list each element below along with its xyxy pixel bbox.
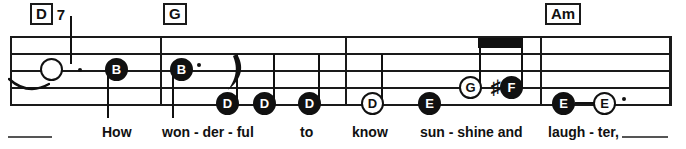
note-11-head[interactable]: E — [552, 92, 575, 115]
lyric-wonderful: won - der - ful — [162, 124, 254, 140]
staff-line-4 — [10, 87, 672, 89]
barline-end — [669, 36, 672, 106]
lyric-laughter: laugh - ter, — [548, 124, 619, 140]
note-7-head[interactable]: D — [361, 92, 384, 115]
note-9-head[interactable]: G — [459, 76, 482, 99]
note-5-stem — [273, 54, 275, 102]
note-1-head[interactable] — [40, 58, 63, 81]
chord-root-label: Am — [545, 3, 581, 25]
barline-1 — [160, 36, 162, 106]
staff-line-2 — [10, 53, 672, 55]
staff-line-1 — [10, 36, 672, 38]
note-2-head[interactable]: B — [105, 58, 128, 81]
lyric-know: know — [352, 124, 388, 140]
chord-symbol-d7[interactable]: D 7 — [30, 3, 65, 25]
lyric-how: How — [102, 124, 132, 140]
chord-extension-label: 7 — [57, 6, 65, 23]
note-8-head[interactable]: E — [418, 92, 441, 115]
chord-root-label: G — [163, 3, 187, 25]
sheet-music-excerpt: D 7 G Am B B D D D D E — [0, 0, 686, 149]
tie-incoming — [8, 76, 50, 96]
barline-3 — [540, 36, 542, 106]
note-6-head[interactable]: D — [298, 92, 321, 115]
note-3-dot — [197, 63, 201, 67]
lyric-rule-end — [622, 136, 668, 138]
barline-2 — [345, 36, 347, 106]
note-4-flag — [220, 52, 246, 94]
note-1-dot — [78, 68, 82, 72]
note-4-head[interactable]: D — [216, 92, 239, 115]
note-1-stem — [70, 16, 72, 64]
note-5-head[interactable]: D — [253, 92, 276, 115]
chord-symbol-g[interactable]: G — [163, 3, 187, 25]
note-12-head[interactable]: E — [593, 92, 616, 115]
note-3-head[interactable]: B — [170, 58, 193, 81]
lyric-sunshine-and: sun - shine and — [420, 124, 523, 140]
lyric-to: to — [300, 124, 313, 140]
note-10-head[interactable]: F — [500, 76, 523, 99]
tie-e-to-e — [575, 102, 594, 104]
lyric-rule-start — [8, 136, 52, 138]
note-6-stem — [318, 54, 320, 102]
chord-symbol-am[interactable]: Am — [545, 3, 581, 25]
note-12-dot — [622, 97, 626, 101]
note-7-stem — [381, 54, 383, 102]
chord-root-label: D — [30, 3, 53, 25]
beam-g-fsharp — [478, 38, 523, 48]
